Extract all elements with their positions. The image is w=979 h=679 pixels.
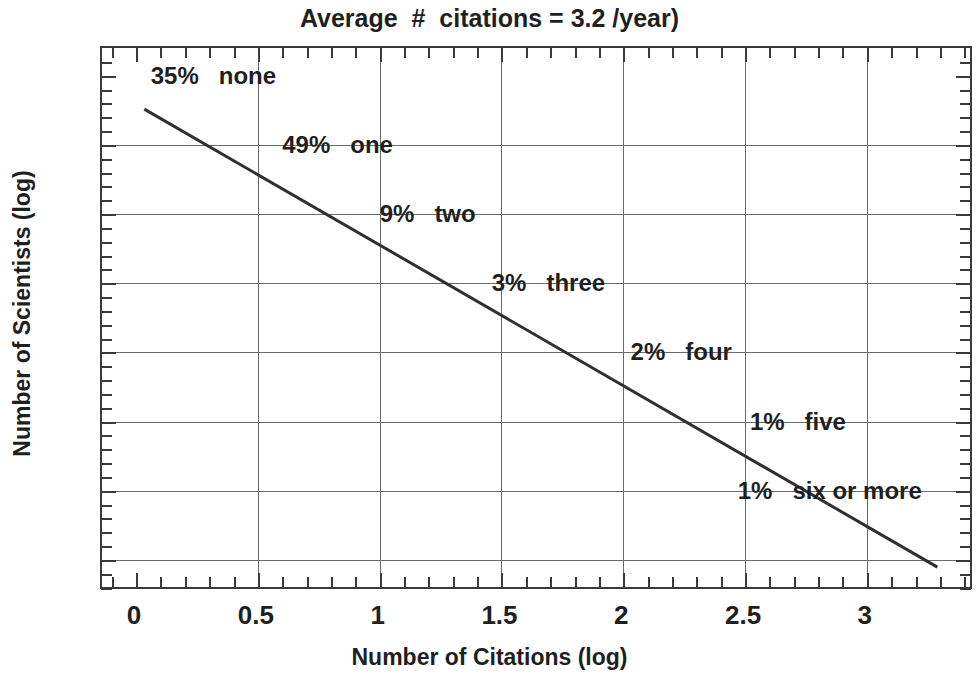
- axis-tick-minor: [101, 588, 112, 590]
- annotation-label: four: [685, 338, 732, 365]
- annotation-percent: 9%: [380, 200, 415, 227]
- data-annotation-three: 3% three: [492, 269, 605, 297]
- x-axis-tick-label: 1.5: [481, 600, 517, 631]
- data-annotation-two: 9% two: [380, 200, 476, 228]
- x-axis-tick-label: 0.5: [238, 600, 274, 631]
- x-axis-tick-label: 2: [614, 600, 628, 631]
- y-axis-title: Number of Scientists (log): [9, 4, 36, 624]
- data-annotation-four: 2% four: [631, 338, 732, 366]
- annotation-percent: 49%: [282, 131, 330, 158]
- annotation-percent: 3%: [492, 269, 527, 296]
- annotation-label: six or more: [792, 477, 921, 504]
- annotation-label: three: [546, 269, 605, 296]
- annotation-percent: 1%: [738, 477, 773, 504]
- annotation-label: none: [219, 62, 276, 89]
- x-axis-tick-label: 2.5: [725, 600, 761, 631]
- annotation-label: one: [350, 131, 393, 158]
- x-axis-title: Number of Citations (log): [0, 644, 979, 671]
- annotation-percent: 35%: [151, 62, 199, 89]
- annotation-label: five: [805, 408, 846, 435]
- x-axis-tick-label: 1: [370, 600, 384, 631]
- annotation-percent: 1%: [750, 408, 785, 435]
- x-axis-tick-label: 3: [858, 600, 872, 631]
- chart-title: Average # citations = 3.2 /year): [0, 4, 979, 33]
- annotation-label: two: [434, 200, 475, 227]
- trend-line-svg: [102, 48, 970, 587]
- data-annotation-five: 1% five: [750, 408, 846, 436]
- x-axis-tick-label: 0: [127, 600, 141, 631]
- annotation-percent: 2%: [631, 338, 666, 365]
- plot-area: 35% none49% one9% two3% three2% four1% f…: [100, 46, 972, 589]
- chart-container: Average # citations = 3.2 /year) Number …: [0, 0, 979, 679]
- data-annotation-six-or-more: 1% six or more: [738, 477, 922, 505]
- data-annotation-one: 49% one: [282, 131, 393, 159]
- data-annotation-none: 35% none: [151, 62, 276, 90]
